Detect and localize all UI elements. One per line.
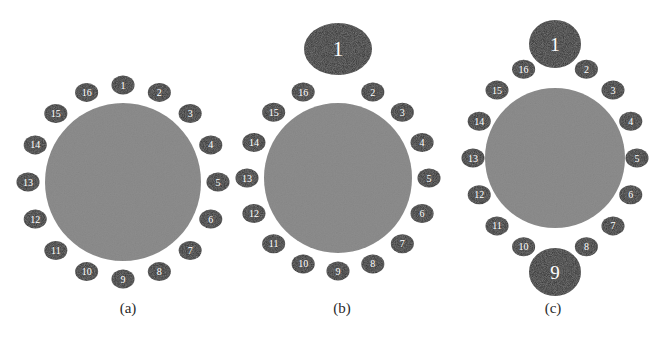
node-label: 4 bbox=[628, 116, 633, 127]
panel-c-node-11[interactable]: 11 bbox=[486, 216, 509, 235]
panel-c-node-13[interactable]: 13 bbox=[462, 149, 485, 168]
node-label: 4 bbox=[420, 137, 425, 148]
panel-a-node-9[interactable]: 9 bbox=[112, 270, 135, 289]
panel-c-node-7[interactable]: 7 bbox=[601, 216, 624, 235]
node-label: 13 bbox=[468, 153, 478, 164]
panel-b-node-12[interactable]: 12 bbox=[242, 204, 265, 223]
panel-b-node-14[interactable]: 14 bbox=[242, 133, 265, 152]
node-label: 11 bbox=[492, 220, 502, 231]
panel-a-node-5[interactable]: 5 bbox=[207, 173, 230, 192]
node-label: 14 bbox=[474, 116, 484, 127]
node-label: 7 bbox=[610, 220, 615, 231]
panel-b-node-9[interactable]: 9 bbox=[327, 262, 350, 281]
panel-b-node-5[interactable]: 5 bbox=[418, 169, 441, 188]
node-label: 3 bbox=[400, 107, 405, 118]
panel-b-node-3[interactable]: 3 bbox=[391, 103, 414, 122]
panel-a-node-8[interactable]: 8 bbox=[148, 262, 171, 281]
panel-c-node-15[interactable]: 15 bbox=[486, 81, 509, 100]
panel-b-node-4[interactable]: 4 bbox=[411, 133, 434, 152]
panel-c-node-4[interactable]: 4 bbox=[619, 112, 642, 131]
panel-c-node-14[interactable]: 14 bbox=[468, 112, 491, 131]
panel-b-node-16[interactable]: 16 bbox=[292, 83, 315, 102]
node-label: 5 bbox=[216, 177, 221, 188]
node-label: 9 bbox=[336, 266, 341, 277]
node-label: 2 bbox=[157, 87, 162, 98]
panel-a-node-3[interactable]: 3 bbox=[179, 104, 202, 123]
node-label: 5 bbox=[427, 173, 432, 184]
node-label: 11 bbox=[269, 238, 279, 249]
panel-b-node-7[interactable]: 7 bbox=[391, 234, 414, 253]
panel-caption-c: (c) bbox=[545, 300, 562, 317]
node-label: 1 bbox=[333, 37, 344, 61]
panel-b-node-13[interactable]: 13 bbox=[236, 169, 259, 188]
panel-c-node-2[interactable]: 2 bbox=[575, 60, 598, 79]
node-label: 5 bbox=[635, 153, 640, 164]
panel-a-node-4[interactable]: 4 bbox=[199, 135, 222, 154]
node-label: 14 bbox=[30, 139, 40, 150]
node-label: 10 bbox=[298, 258, 308, 269]
panel-c-node-8[interactable]: 8 bbox=[575, 237, 598, 256]
node-label: 9 bbox=[550, 262, 560, 283]
ring-network-figure: 12345678910111213141516(a)12345678910111… bbox=[0, 0, 665, 354]
panel-a-node-11[interactable]: 11 bbox=[44, 241, 67, 260]
node-label: 1 bbox=[121, 80, 126, 91]
node-label: 12 bbox=[30, 214, 40, 225]
node-label: 9 bbox=[121, 274, 126, 285]
panel-c-node-16[interactable]: 16 bbox=[512, 60, 535, 79]
node-label: 12 bbox=[474, 189, 484, 200]
panel-c-node-12[interactable]: 12 bbox=[468, 185, 491, 204]
node-label: 3 bbox=[188, 108, 193, 119]
node-label: 15 bbox=[51, 108, 61, 119]
panel-c-node-10[interactable]: 10 bbox=[512, 237, 535, 256]
node-label: 11 bbox=[51, 245, 61, 256]
node-label: 14 bbox=[249, 137, 259, 148]
panel-a-node-2[interactable]: 2 bbox=[148, 83, 171, 102]
node-label: 8 bbox=[157, 266, 162, 277]
node-label: 7 bbox=[188, 245, 193, 256]
node-label: 1 bbox=[550, 34, 560, 55]
node-label: 16 bbox=[82, 87, 92, 98]
panel-b-node-10[interactable]: 10 bbox=[292, 254, 315, 273]
panel-a-node-14[interactable]: 14 bbox=[24, 135, 47, 154]
node-label: 6 bbox=[208, 214, 213, 225]
node-label: 10 bbox=[519, 241, 529, 252]
node-label: 2 bbox=[584, 64, 589, 75]
panel-b-node-2[interactable]: 2 bbox=[361, 83, 384, 102]
panel-a-node-7[interactable]: 7 bbox=[179, 241, 202, 260]
panel-b-node-15[interactable]: 15 bbox=[262, 103, 285, 122]
node-label: 15 bbox=[492, 85, 502, 96]
panel-c-node-1[interactable]: 1 bbox=[529, 20, 581, 68]
node-label: 6 bbox=[420, 208, 425, 219]
node-label: 8 bbox=[370, 258, 375, 269]
panel-a-node-12[interactable]: 12 bbox=[24, 210, 47, 229]
node-label: 10 bbox=[82, 266, 92, 277]
figure-canvas: 12345678910111213141516(a)12345678910111… bbox=[0, 0, 665, 354]
panel-caption-a: (a) bbox=[120, 300, 137, 317]
panel-c-node-3[interactable]: 3 bbox=[601, 81, 624, 100]
node-label: 3 bbox=[610, 85, 615, 96]
panel-b-node-6[interactable]: 6 bbox=[411, 204, 434, 223]
panel-b-node-1[interactable]: 1 bbox=[304, 23, 372, 75]
panel-b-node-11[interactable]: 11 bbox=[262, 234, 285, 253]
panel-c-node-6[interactable]: 6 bbox=[619, 185, 642, 204]
panel-c-core-disc bbox=[485, 88, 625, 228]
node-label: 7 bbox=[400, 238, 405, 249]
panel-a-node-16[interactable]: 16 bbox=[75, 83, 98, 102]
panel-a-node-10[interactable]: 10 bbox=[75, 262, 98, 281]
panel-c-node-9[interactable]: 9 bbox=[529, 248, 581, 296]
panel-a-node-6[interactable]: 6 bbox=[199, 210, 222, 229]
panel-a-node-1[interactable]: 1 bbox=[112, 76, 135, 95]
node-label: 16 bbox=[519, 64, 529, 75]
node-label: 15 bbox=[269, 107, 279, 118]
node-label: 12 bbox=[249, 208, 259, 219]
panel-caption-b: (b) bbox=[333, 300, 351, 317]
panel-a-core-disc bbox=[45, 103, 201, 261]
panel-a-node-13[interactable]: 13 bbox=[17, 173, 40, 192]
panel-b-node-8[interactable]: 8 bbox=[361, 254, 384, 273]
node-label: 2 bbox=[370, 87, 375, 98]
panel-c-node-5[interactable]: 5 bbox=[626, 149, 649, 168]
node-label: 13 bbox=[23, 177, 33, 188]
panel-b-core-disc bbox=[264, 103, 412, 253]
node-label: 16 bbox=[298, 87, 308, 98]
panel-a-node-15[interactable]: 15 bbox=[44, 104, 67, 123]
